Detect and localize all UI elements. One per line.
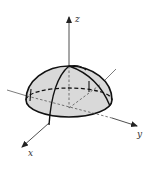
y-axis-label: y (136, 129, 143, 139)
hemisphere-diagram: z x y (0, 0, 151, 170)
z-axis-label: z (74, 14, 80, 24)
x-axis (22, 123, 49, 147)
y-axis-negative (7, 90, 27, 96)
x-axis-label: x (28, 148, 33, 158)
y-axis (112, 118, 137, 126)
